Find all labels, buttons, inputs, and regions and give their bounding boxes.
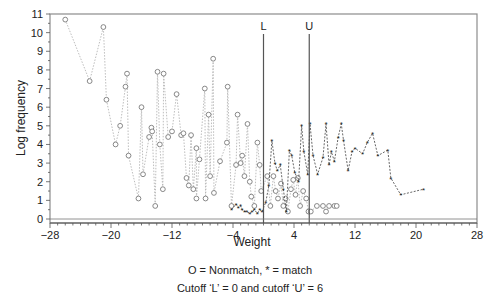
x-tick-label: 12 xyxy=(349,229,361,241)
y-tick-label: 8 xyxy=(37,64,43,76)
nonmatch-point xyxy=(211,56,216,61)
legend-caption: O = Nonmatch, * = match xyxy=(0,264,500,276)
x-tick-label: 28 xyxy=(471,229,483,241)
y-tick-label: 3 xyxy=(37,157,43,169)
nonmatch-point xyxy=(225,140,230,145)
nonmatch-point xyxy=(184,176,189,181)
nonmatch-point xyxy=(301,189,306,194)
match-point: * xyxy=(399,191,402,200)
match-point: * xyxy=(230,206,233,215)
nonmatch-point xyxy=(276,196,281,201)
cutoff-label-U: U xyxy=(305,20,313,32)
y-tick-label: 9 xyxy=(37,45,43,57)
nonmatch-point xyxy=(203,196,208,201)
match-point: * xyxy=(279,161,282,170)
y-tick-label: 6 xyxy=(37,101,43,113)
x-tick-label: −12 xyxy=(163,229,182,241)
match-point: * xyxy=(333,158,336,167)
x-tick-label: 4 xyxy=(291,229,297,241)
cutoff-caption: Cutoff ‘L’ = 0 and cutoff ‘U’ = 6 xyxy=(0,282,500,294)
match-point: * xyxy=(293,169,296,178)
nonmatch-point xyxy=(289,187,294,192)
nonmatch-point xyxy=(139,105,144,110)
nonmatch-point xyxy=(191,187,196,192)
nonmatch-point xyxy=(249,194,254,199)
nonmatch-point xyxy=(240,153,245,158)
nonmatch-point xyxy=(160,187,165,192)
match-point: * xyxy=(361,150,364,159)
match-point: * xyxy=(270,137,273,146)
nonmatch-point xyxy=(225,84,230,89)
nonmatch-point xyxy=(324,209,329,214)
nonmatch-point xyxy=(123,84,128,89)
match-point: * xyxy=(312,152,315,161)
match-point: * xyxy=(389,175,392,184)
y-tick-label: 10 xyxy=(31,27,43,39)
cutoff-label-L: L xyxy=(260,20,266,32)
nonmatch-point xyxy=(238,161,243,166)
nonmatch-point xyxy=(166,135,171,140)
nonmatch-point xyxy=(206,112,211,117)
nonmatch-point xyxy=(247,179,252,184)
y-tick-label: 5 xyxy=(37,120,43,132)
match-point: * xyxy=(267,182,270,191)
y-tick-label: 4 xyxy=(37,138,43,150)
nonmatch-point xyxy=(170,129,175,134)
nonmatch-point xyxy=(242,174,247,179)
nonmatch-point xyxy=(157,142,162,147)
match-point: * xyxy=(371,130,374,139)
nonmatch-point xyxy=(87,79,92,84)
nonmatch-point xyxy=(304,196,309,201)
match-point: * xyxy=(337,134,340,143)
nonmatch-point xyxy=(265,174,270,179)
y-axis-title: Log frequency xyxy=(14,80,28,156)
nonmatch-point xyxy=(291,177,296,182)
x-tick-label: −28 xyxy=(41,229,60,241)
nonmatch-point xyxy=(273,189,278,194)
nonmatch-point xyxy=(202,86,207,91)
match-point: * xyxy=(282,186,285,195)
match-point: * xyxy=(330,148,333,157)
nonmatch-point xyxy=(212,191,217,196)
nonmatch-point xyxy=(155,69,160,74)
nonmatch-point xyxy=(147,135,152,140)
y-tick-label: 11 xyxy=(32,8,43,20)
match-point: * xyxy=(340,120,343,129)
match-point: * xyxy=(422,186,425,195)
match-point: * xyxy=(342,137,345,146)
nonmatch-point xyxy=(235,112,240,117)
nonmatch-point xyxy=(218,159,223,164)
nonmatch-point xyxy=(194,196,199,201)
nonmatch-point xyxy=(194,146,199,151)
nonmatch-point xyxy=(259,189,264,194)
match-point: * xyxy=(328,161,331,170)
nonmatch-point xyxy=(113,142,118,147)
nonmatch-point xyxy=(125,71,130,76)
match-point: * xyxy=(347,167,350,176)
nonmatch-point xyxy=(327,204,332,209)
nonmatch-point xyxy=(104,97,109,102)
match-point: * xyxy=(264,199,267,208)
nonmatch-point xyxy=(298,204,303,209)
y-tick-label: 7 xyxy=(37,83,43,95)
x-axis-title: Weight xyxy=(233,235,271,249)
nonmatch-point xyxy=(314,204,319,209)
nonmatch-point xyxy=(321,204,326,209)
x-tick-label: 20 xyxy=(410,229,422,241)
nonmatch-point xyxy=(181,131,186,136)
nonmatch-point xyxy=(136,196,141,201)
match-point: * xyxy=(316,171,319,180)
y-tick-label: 2 xyxy=(37,176,43,188)
nonmatch-point xyxy=(234,163,239,168)
match-point: * xyxy=(302,148,305,157)
nonmatch-point xyxy=(293,192,298,197)
nonmatch-point xyxy=(63,17,68,22)
match-point: * xyxy=(300,122,303,131)
nonmatch-point xyxy=(334,204,339,209)
y-tick-label: 1 xyxy=(37,194,43,206)
nonmatch-point xyxy=(189,133,194,138)
nonmatch-point xyxy=(197,157,202,162)
nonmatch-point xyxy=(161,71,166,76)
nonmatch-point xyxy=(208,174,213,179)
match-point: * xyxy=(324,120,327,129)
